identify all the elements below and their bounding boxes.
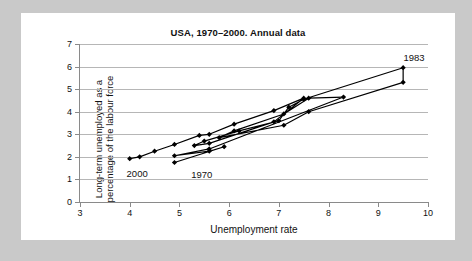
chart-figure-panel: USA, 1970–2000. Annual data Long-term un… bbox=[21, 13, 455, 240]
y-tick-label-1: 1 bbox=[67, 175, 72, 184]
x-tick-mark-3 bbox=[80, 202, 81, 207]
plot-area: Long-term unemployed as a percentage of … bbox=[80, 44, 428, 202]
data-point-1995 bbox=[207, 132, 212, 137]
data-point-1980 bbox=[281, 123, 286, 128]
annotation-1970: 1970 bbox=[191, 169, 212, 180]
y-tick-label-5: 5 bbox=[67, 85, 72, 94]
data-point-1989 bbox=[192, 143, 197, 148]
y-tick-label-6: 6 bbox=[67, 62, 72, 71]
y-tick-label-7: 7 bbox=[67, 40, 72, 49]
y-tick-label-3: 3 bbox=[67, 130, 72, 139]
data-point-1982 bbox=[401, 80, 406, 85]
annotation-1983: 1983 bbox=[404, 52, 425, 63]
x-tick-label-4: 4 bbox=[127, 209, 132, 218]
data-point-1975 bbox=[341, 94, 346, 99]
x-tick-label-10: 10 bbox=[423, 209, 433, 218]
data-point-1996 bbox=[197, 133, 202, 138]
x-tick-label-9: 9 bbox=[376, 209, 381, 218]
x-tick-mark-6 bbox=[229, 202, 230, 207]
y-tick-label-4: 4 bbox=[67, 107, 72, 116]
data-point-1994 bbox=[232, 122, 237, 127]
data-point-1997 bbox=[172, 142, 177, 147]
data-point-2000 bbox=[127, 156, 132, 161]
x-tick-label-7: 7 bbox=[276, 209, 281, 218]
x-tick-mark-10 bbox=[428, 202, 429, 207]
data-point-1983 bbox=[401, 65, 406, 70]
y-tick-label-0: 0 bbox=[67, 198, 72, 207]
data-point-1990 bbox=[207, 141, 212, 146]
data-point-1970 bbox=[172, 160, 177, 165]
x-tick-mark-9 bbox=[378, 202, 379, 207]
x-tick-mark-7 bbox=[279, 202, 280, 207]
x-tick-label-3: 3 bbox=[77, 209, 82, 218]
y-tick-label-2: 2 bbox=[67, 152, 72, 161]
data-point-1993 bbox=[271, 108, 276, 113]
data-point-1971 bbox=[222, 144, 227, 149]
x-tick-label-5: 5 bbox=[177, 209, 182, 218]
data-point-1988 bbox=[202, 138, 207, 143]
series-0 bbox=[127, 65, 406, 165]
x-tick-mark-5 bbox=[179, 202, 180, 207]
series-plot bbox=[80, 44, 428, 202]
chart-title: USA, 1970–2000. Annual data bbox=[21, 27, 455, 38]
series-line bbox=[130, 68, 403, 163]
x-tick-mark-8 bbox=[329, 202, 330, 207]
annotation-2000: 2000 bbox=[127, 167, 148, 178]
x-tick-label-8: 8 bbox=[326, 209, 331, 218]
data-point-1999 bbox=[137, 154, 142, 159]
x-tick-mark-4 bbox=[130, 202, 131, 207]
x-tick-label-6: 6 bbox=[227, 209, 232, 218]
x-axis-label: Unemployment rate bbox=[80, 224, 428, 235]
data-point-1998 bbox=[152, 149, 157, 154]
data-point-1973 bbox=[172, 153, 177, 158]
